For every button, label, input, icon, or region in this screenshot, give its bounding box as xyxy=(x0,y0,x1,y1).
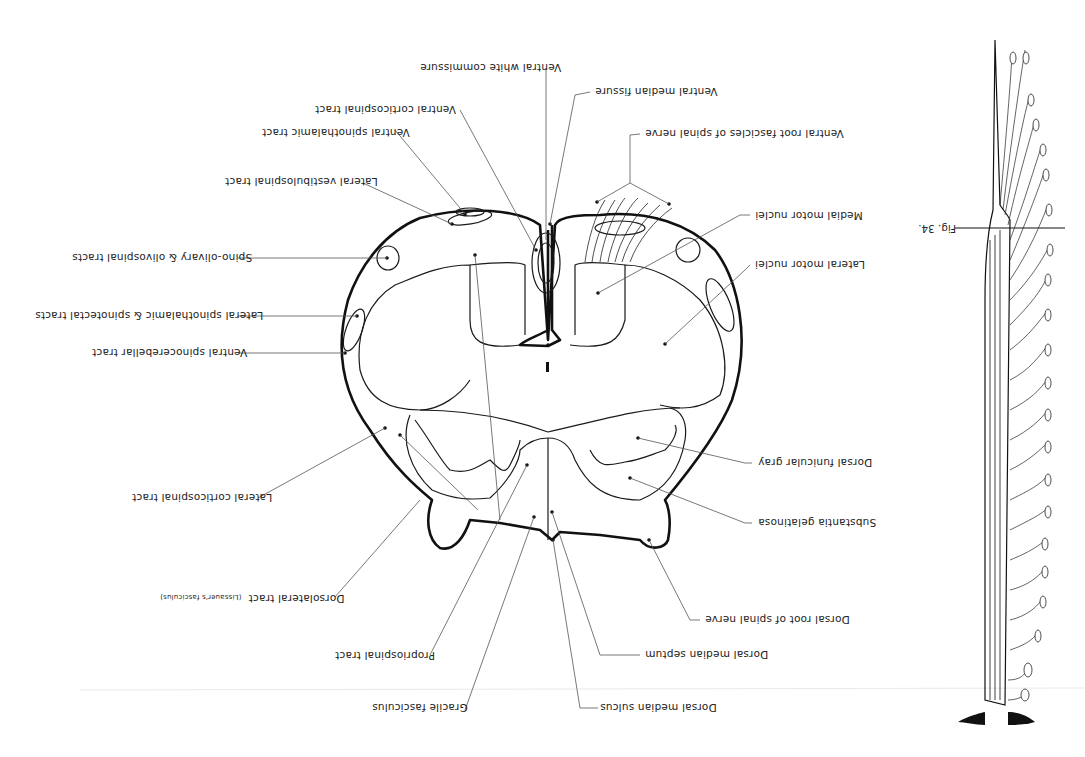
label-dorsolateral-tract: Dorsolateral tract (Lissauer's fasciculu… xyxy=(160,591,345,605)
label-medial-motor-nuclei: Medial motor nuclei xyxy=(755,210,863,222)
label-ventral-corticospinal-tract: Ventral corticospinal tract xyxy=(315,104,456,116)
label-ventral-root-fascicles: Ventral root fascicles of spinal nerve xyxy=(645,128,844,140)
label-dorsal-funicular-gray: Dorsal funicular gray xyxy=(758,457,872,469)
label-ventral-spinocerebellar-tract: Ventral spinocerebellar tract xyxy=(92,347,247,359)
ventral-root-fascicles xyxy=(585,198,672,262)
label-dorsal-root-of-spinal-nerve: Dorsal root of spinal nerve xyxy=(705,614,850,626)
label-lateral-vestibulospinal-tract: Lateral vestibulospinal tract xyxy=(225,176,378,188)
label-substantia-gelatinosa: Substantia gelatinosa xyxy=(758,517,876,529)
gray-matter-outline xyxy=(359,263,725,540)
leader-lines xyxy=(238,68,752,710)
label-lateral-spinothalamic-tracts: Lateral spinothalamic & spinotectal trac… xyxy=(35,310,263,322)
figure-number: Fig. 34. xyxy=(918,222,956,234)
label-ventral-spinothalamic-tract: Ventral spinothalamic tract xyxy=(262,127,410,139)
spinal-cord-figure: Ventral white commissure Ventral median … xyxy=(0,0,1085,757)
label-gracile-fasciculus: Gracile fasciculus xyxy=(372,702,468,714)
dorsolateral-tract-main: Dorsolateral tract xyxy=(249,593,345,605)
label-dorsal-median-sulcus: Dorsal median sulcus xyxy=(600,702,717,714)
label-spino-olivary-tracts: Spino-olivary & olivospinal tracts xyxy=(72,252,252,264)
label-lateral-motor-nuclei: Lateral motor nuclei xyxy=(755,259,865,271)
label-propriospinal-tract: Propriospinal tract xyxy=(335,650,435,662)
label-ventral-median-fissure: Ventral median fissure xyxy=(595,86,717,98)
spinal-cord-drawing xyxy=(0,0,1085,757)
label-ventral-white-commissure: Ventral white commissure xyxy=(420,62,561,74)
label-dorsal-median-septum: Dorsal median septum xyxy=(645,649,768,661)
dorsolateral-tract-alias: (Lissauer's fasciculus) xyxy=(160,593,241,601)
label-lateral-corticospinal-tract: Lateral corticospinal tract xyxy=(132,492,272,504)
